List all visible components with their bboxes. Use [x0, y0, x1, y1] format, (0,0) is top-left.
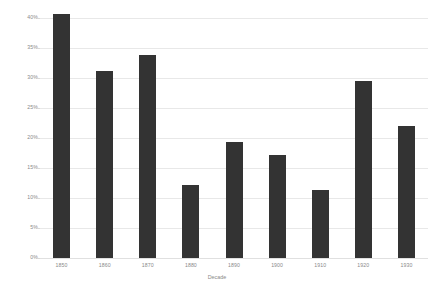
y-axis-tick-label: 35%	[4, 45, 38, 50]
bar-series	[40, 18, 428, 258]
bar	[312, 190, 329, 258]
x-axis-tick-label: 1850	[40, 262, 83, 268]
x-axis-tick-label: 1920	[342, 262, 385, 268]
x-axis-tick-labels: 185018601870188018901900191019201930	[40, 262, 428, 274]
y-axis-tick-labels: 0%5%10%15%20%25%30%35%40%	[0, 0, 38, 293]
x-axis-tick-label: 1930	[385, 262, 428, 268]
x-axis-tick-label: 1900	[256, 262, 299, 268]
bar	[139, 55, 156, 258]
y-axis-tick-label: 40%	[4, 15, 38, 20]
x-axis-tick-label: 1870	[126, 262, 169, 268]
x-axis-tick-label: 1910	[299, 262, 342, 268]
bar	[96, 71, 113, 258]
gridline	[40, 258, 428, 259]
bar	[53, 14, 70, 258]
bar	[269, 155, 286, 258]
y-axis-tick-label: 0%	[4, 255, 38, 260]
bar	[398, 126, 415, 258]
x-axis-title: Decade	[0, 274, 434, 280]
bar-chart-figure: 0%5%10%15%20%25%30%35%40% 18501860187018…	[0, 0, 434, 293]
x-axis-tick-label: 1890	[212, 262, 255, 268]
y-axis-tick-label: 20%	[4, 135, 38, 140]
y-axis-tick-label: 25%	[4, 105, 38, 110]
bar	[182, 185, 199, 258]
bar	[355, 81, 372, 258]
y-axis-tick-label: 10%	[4, 195, 38, 200]
x-axis-tick-label: 1860	[83, 262, 126, 268]
y-axis-tick-label: 30%	[4, 75, 38, 80]
x-axis-tick-label: 1880	[169, 262, 212, 268]
bar	[226, 142, 243, 258]
y-axis-tick-label: 15%	[4, 165, 38, 170]
y-axis-tick-label: 5%	[4, 225, 38, 230]
plot-area	[40, 18, 428, 258]
